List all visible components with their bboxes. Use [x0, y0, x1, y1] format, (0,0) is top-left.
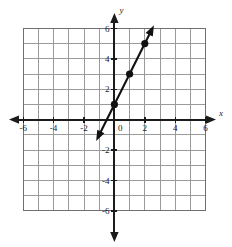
axes-group	[9, 13, 216, 242]
origin-label: 0	[118, 123, 123, 133]
y-tick-label: 6	[105, 24, 110, 34]
x-tick-label: 2	[143, 123, 148, 133]
y-axis-arrow-up	[110, 13, 118, 23]
graph-canvas: -6-4-2246642-2-4-60xy	[0, 0, 232, 247]
y-axis-arrow-down	[110, 232, 118, 242]
axis-labels: -6-4-2246642-2-4-60xy	[19, 5, 223, 216]
y-tick-label: -2	[102, 145, 110, 155]
x-tick-label: -2	[80, 123, 88, 133]
y-tick-label: -6	[102, 206, 110, 216]
y-tick-label: -4	[102, 176, 110, 186]
y-tick-label: 4	[105, 54, 110, 64]
x-axis-name: x	[218, 108, 223, 118]
y-axis-name: y	[118, 5, 123, 15]
x-axis-arrow-left	[9, 115, 19, 123]
y-tick-label: 2	[105, 84, 110, 94]
x-tick-label: 6	[203, 123, 208, 133]
coordinate-graph: -6-4-2246642-2-4-60xy	[0, 0, 232, 247]
data-point	[126, 70, 133, 77]
line-arrow-upper	[146, 25, 154, 36]
x-tick-label: 4	[173, 123, 178, 133]
data-point	[111, 101, 118, 108]
x-tick-label: -4	[50, 123, 58, 133]
x-tick-label: -6	[19, 123, 27, 133]
line-segment	[100, 33, 150, 133]
data-point	[141, 40, 148, 47]
